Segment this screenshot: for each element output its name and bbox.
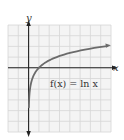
function-label: f(x) = ln x [50, 78, 98, 89]
ln-graph [0, 0, 124, 140]
x-axis-label: x [113, 62, 119, 73]
y-axis-label: y [26, 12, 32, 23]
